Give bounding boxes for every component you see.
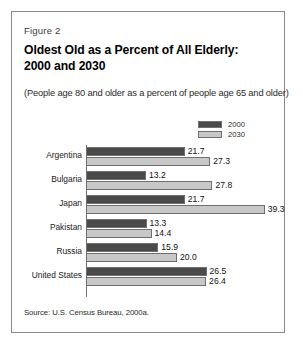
bar-chart-plot: Argentina21.727.3Bulgaria13.227.8Japan21… xyxy=(24,145,274,297)
category-label: Pakistan xyxy=(0,222,82,232)
bar-value-label: 26.5 xyxy=(210,266,227,276)
bar-2030-argentina xyxy=(86,157,210,166)
chart-row: Russia15.920.0 xyxy=(24,241,274,265)
figure-frame: Figure 2 Oldest Old as a Percent of All … xyxy=(11,11,285,333)
bar-2000-japan xyxy=(86,195,185,204)
bar-2030-pakistan xyxy=(86,229,152,238)
category-label: Russia xyxy=(0,246,82,256)
bar-value-label: 39.3 xyxy=(268,204,285,214)
figure-label: Figure 2 xyxy=(24,25,60,36)
bar-value-label: 27.8 xyxy=(215,180,232,190)
chart-legend: 2000 2030 xyxy=(198,120,278,140)
bar-value-label: 15.9 xyxy=(161,242,178,252)
chart-row: Bulgaria13.227.8 xyxy=(24,169,274,193)
bar-2030-bulgaria xyxy=(86,181,212,190)
bar-value-label: 13.3 xyxy=(150,218,167,228)
chart-row: Pakistan13.314.4 xyxy=(24,217,274,241)
category-label: Argentina xyxy=(0,150,82,160)
legend-label-2000: 2000 xyxy=(228,120,245,129)
bar-value-label: 27.3 xyxy=(213,156,230,166)
bar-2000-pakistan xyxy=(86,219,147,228)
bar-value-label: 14.4 xyxy=(155,228,172,238)
bar-2030-japan xyxy=(86,205,265,214)
chart-row: Argentina21.727.3 xyxy=(24,145,274,169)
chart-row: United States26.526.4 xyxy=(24,265,274,289)
figure-title: Oldest Old as a Percent of All Elderly: … xyxy=(24,43,276,74)
legend-label-2030: 2030 xyxy=(228,130,245,139)
bar-value-label: 26.4 xyxy=(209,276,226,286)
bar-2000-bulgaria xyxy=(86,171,146,180)
bar-2030-russia xyxy=(86,253,177,262)
figure-subtitle: (People age 80 and older as a percent of… xyxy=(24,88,282,98)
legend-swatch-2000 xyxy=(198,121,222,128)
bar-value-label: 13.2 xyxy=(149,170,166,180)
chart-row: Japan21.739.3 xyxy=(24,193,274,217)
legend-item-2030: 2030 xyxy=(198,130,278,139)
figure-title-line-1: Oldest Old as a Percent of All Elderly: xyxy=(24,43,276,59)
bar-2030-united-states xyxy=(86,277,206,286)
category-label: United States xyxy=(0,270,82,280)
bar-value-label: 20.0 xyxy=(180,252,197,262)
legend-swatch-2030 xyxy=(198,131,222,138)
bar-value-label: 21.7 xyxy=(188,194,205,204)
legend-item-2000: 2000 xyxy=(198,120,278,129)
category-label: Japan xyxy=(0,198,82,208)
bar-2000-russia xyxy=(86,243,158,252)
category-label: Bulgaria xyxy=(0,174,82,184)
bar-2000-united-states xyxy=(86,267,207,276)
source-note: Source: U.S. Census Bureau, 2000a. xyxy=(24,308,149,317)
bar-2000-argentina xyxy=(86,147,185,156)
bar-value-label: 21.7 xyxy=(188,146,205,156)
figure-title-line-2: 2000 and 2030 xyxy=(24,59,276,75)
